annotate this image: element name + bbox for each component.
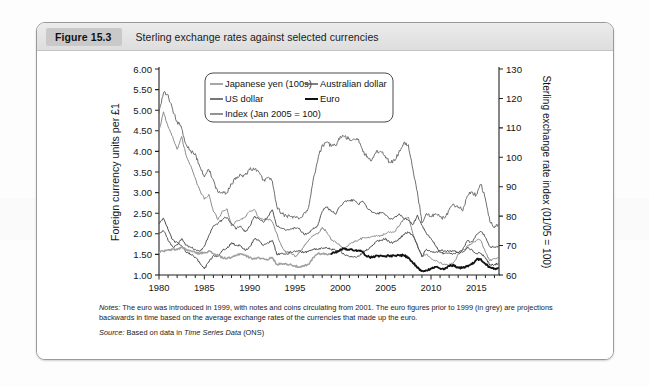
source-label: Source: [99, 328, 124, 337]
y-axis-tick-label: 5.00 [133, 105, 152, 116]
y-axis-tick-label: 2.50 [133, 208, 152, 219]
legend-label: Index (Jan 2005 = 100) [225, 109, 321, 119]
x-axis-tick-label: 2010 [421, 282, 442, 293]
y2-axis-tick-label: 130 [506, 64, 522, 75]
y-axis-tick-label: 3.50 [133, 167, 152, 178]
series-line-australian-dollar [159, 199, 498, 254]
y-axis-tick-label: 1.00 [133, 270, 152, 281]
legend-label: Euro [320, 94, 340, 104]
y-axis-tick-label: 4.50 [133, 125, 152, 136]
y-axis-tick-label: 1.50 [133, 249, 152, 260]
x-axis-tick-label: 1990 [239, 282, 260, 293]
y2-axis-tick-label: 120 [506, 93, 522, 104]
notes-label: Notes: [99, 303, 120, 312]
x-axis-tick-label: 2005 [375, 282, 396, 293]
x-axis-tick-label: 1995 [285, 282, 306, 293]
legend-label: Australian dollar [320, 79, 387, 89]
figure-body: 1.001.502.002.503.003.504.004.505.005.50… [37, 51, 613, 360]
notes-text: The euro was introduced in 1999, with no… [99, 303, 553, 322]
chart-container: 1.001.502.002.503.003.504.004.505.005.50… [37, 55, 614, 300]
figure-title: Sterling exchange rates against selected… [136, 31, 379, 43]
y2-axis-tick-label: 100 [506, 152, 522, 163]
y2-axis-tick-label: 80 [506, 211, 517, 222]
x-axis-tick-label: 2015 [466, 282, 487, 293]
source-suffix: (ONS) [241, 328, 264, 337]
y-axis-tick-label: 4.00 [133, 146, 152, 157]
figure-card: Figure 15.3 Sterling exchange rates agai… [36, 22, 614, 360]
x-axis-tick-label: 2000 [330, 282, 351, 293]
source-publication: Time Series Data [184, 328, 241, 337]
series-line-us-dollar [159, 218, 498, 268]
y-axis-tick-label: 6.00 [133, 64, 152, 75]
legend-label: US dollar [225, 94, 263, 104]
figure-notes: Notes: The euro was introduced in 1999, … [99, 303, 579, 324]
y-axis-tick-label: 3.00 [133, 187, 152, 198]
y-axis-tick-label: 2.00 [133, 228, 152, 239]
legend-label: Japanese yen (100s) [225, 79, 312, 89]
y2-axis-tick-label: 70 [506, 240, 517, 251]
y2-axis-tick-label: 110 [506, 122, 521, 133]
y-axis-title: Foreign currency units per £1 [109, 103, 121, 241]
y2-axis-title: Sterling exchange rate index (01/05 = 10… [541, 76, 552, 269]
series-line-japanese-yen-100s [159, 112, 498, 266]
figure-header: Figure 15.3 Sterling exchange rates agai… [37, 23, 613, 51]
y-axis-tick-label: 5.50 [133, 84, 152, 95]
figure-number-badge: Figure 15.3 [46, 28, 122, 46]
y2-axis-tick-label: 90 [506, 181, 517, 192]
x-axis-tick-label: 1985 [194, 282, 215, 293]
page-root: Figure 15.3 Sterling exchange rates agai… [0, 0, 649, 387]
x-axis-tick-label: 1980 [149, 282, 170, 293]
source-prefix: Based on data in [124, 328, 184, 337]
y2-axis-tick-label: 60 [506, 270, 517, 281]
figure-source: Source: Based on data in Time Series Dat… [99, 328, 579, 338]
line-chart: 1.001.502.002.503.003.504.004.505.005.50… [37, 55, 614, 300]
